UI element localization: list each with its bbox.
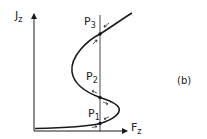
point-p2-label: P2 xyxy=(86,71,98,85)
point-p1-dot xyxy=(98,122,101,125)
point-p2-dot xyxy=(98,96,101,99)
point-p3-label: P3 xyxy=(84,16,96,30)
diagram-canvas xyxy=(0,0,207,139)
panel-label: (b) xyxy=(177,76,191,86)
s-shaped-curve xyxy=(35,13,132,129)
x-axis-label: Fz xyxy=(131,122,142,136)
point-p3-dot xyxy=(98,32,101,35)
point-p1-label: P1 xyxy=(88,108,100,122)
y-axis-label: Jz xyxy=(15,10,22,24)
